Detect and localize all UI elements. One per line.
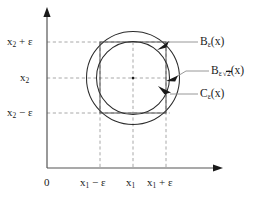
y-tick-label-x2-plus-eps: x2 + ε	[7, 36, 33, 49]
radical-vinculum	[226, 71, 232, 72]
x-tick-op: −	[89, 176, 101, 188]
y-tick-sub: 2	[26, 76, 30, 85]
annotation-label-inner-ball: Bε(x)	[200, 36, 224, 49]
x-tick-sub: 1	[132, 181, 136, 190]
y-tick-term: ε	[28, 35, 33, 47]
x-tick-term: ε	[101, 176, 106, 188]
arrowhead-cube	[158, 86, 171, 94]
anno-arg: (x)	[231, 64, 244, 76]
y-axis-arrowhead	[43, 7, 50, 17]
anno-base: B	[200, 35, 208, 47]
y-tick-label-x2-minus-eps: x2 − ε	[7, 107, 33, 120]
anno-arg: (x)	[211, 87, 224, 99]
anno-base: C	[200, 87, 208, 99]
x-tick-label-origin: 0	[44, 177, 50, 188]
x-tick-op: +	[156, 176, 168, 188]
x-tick-term: ε	[168, 176, 173, 188]
anno-arg: (x)	[211, 35, 224, 47]
annotation-label-cube: Cε(x)	[200, 88, 224, 101]
radical-sign: √2	[222, 70, 231, 78]
x-tick-label-x1-minus-eps: x1 − ε	[80, 177, 106, 190]
y-tick-label-x2: x2	[20, 72, 29, 85]
y-tick-term: ε	[28, 106, 33, 118]
axes	[47, 14, 215, 168]
annotation-label-outer-ball: Bε√2(x)	[211, 65, 244, 78]
x-tick-label-x1: x1	[126, 177, 135, 190]
anno-base: B	[211, 64, 219, 76]
geometry-figure	[0, 0, 280, 197]
center-point-x	[132, 77, 135, 80]
y-tick-op: −	[16, 106, 28, 118]
x-axis-arrowhead	[213, 164, 223, 171]
x-tick-label-x1-plus-eps: x1 + ε	[147, 177, 173, 190]
arrowhead-outer-ball	[166, 76, 178, 82]
y-tick-op: +	[16, 35, 28, 47]
